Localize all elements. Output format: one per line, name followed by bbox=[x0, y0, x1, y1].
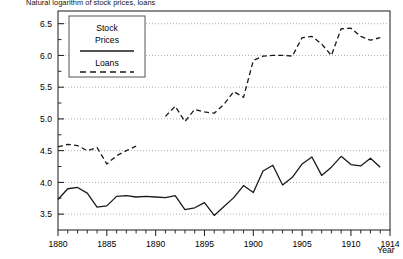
y-tick-label: 3.5 bbox=[40, 209, 52, 219]
y-tick-label: 6.5 bbox=[40, 19, 52, 29]
legend-label-stock-prices-line2: Prices bbox=[95, 35, 119, 45]
y-tick-label: 5.0 bbox=[40, 114, 52, 124]
y-tick-label: 4.0 bbox=[40, 178, 52, 188]
chart-legend: Stock Prices Loans bbox=[69, 16, 145, 77]
y-tick-label: 6.0 bbox=[40, 51, 52, 61]
line-chart: 3.54.04.55.05.56.06.5 188018851890189519… bbox=[0, 0, 403, 259]
chart-root: Natural logarithm of stock prices, loans… bbox=[0, 0, 403, 259]
x-tick-label: 1895 bbox=[195, 239, 214, 249]
x-axis-label: Year bbox=[377, 245, 395, 255]
x-tick-label: 1880 bbox=[48, 239, 67, 249]
x-tick-label: 1900 bbox=[244, 239, 263, 249]
x-tick-label: 1905 bbox=[293, 239, 312, 249]
legend-label-loans: Loans bbox=[95, 58, 118, 68]
y-tick-label: 4.5 bbox=[40, 146, 52, 156]
x-tick-label: 1910 bbox=[341, 239, 360, 249]
legend-label-stock-prices-line1: Stock bbox=[96, 23, 118, 33]
y-tick-label: 5.5 bbox=[40, 82, 52, 92]
x-tick-label: 1885 bbox=[97, 239, 116, 249]
x-tick-label: 1890 bbox=[146, 239, 165, 249]
x-axis: 18801885189018951900190519101914 bbox=[48, 230, 399, 249]
